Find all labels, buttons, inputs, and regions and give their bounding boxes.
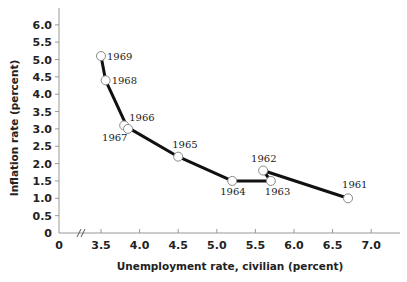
y-tick-label: 4.0 — [33, 88, 53, 101]
data-point-label: 1965 — [172, 139, 197, 150]
y-tick-label: 1.5 — [33, 175, 53, 188]
x-axis-title: Unemployment rate, civilian (percent) — [117, 260, 343, 272]
data-point-marker — [97, 52, 106, 61]
x-tick-label: 7.0 — [361, 239, 381, 252]
data-point-label: 1963 — [265, 186, 290, 197]
y-tick-label: 4.5 — [33, 71, 53, 84]
y-tick-label: 3.5 — [33, 106, 53, 119]
data-point-label: 1966 — [129, 112, 154, 123]
y-axis: 00.51.01.52.02.53.03.54.04.55.05.56.0 — [33, 8, 60, 240]
x-tick-label: 0 — [55, 239, 63, 252]
data-point-marker — [344, 194, 353, 203]
phillips-curve-chart: 00.51.01.52.02.53.03.54.04.55.05.56.0 03… — [0, 0, 407, 282]
y-tick-label: 5.5 — [33, 36, 53, 49]
x-axis: 03.54.04.55.05.56.06.57.0 — [55, 229, 400, 252]
x-tick-label: 4.0 — [130, 239, 150, 252]
data-point-label: 1961 — [342, 179, 367, 190]
y-axis-title: Inflation rate (percent) — [8, 60, 20, 197]
x-tick-label: 4.5 — [168, 239, 188, 252]
data-point-label: 1967 — [102, 132, 127, 143]
data-point-marker — [174, 152, 183, 161]
y-tick-label: 6.0 — [33, 19, 53, 32]
x-tick-label: 6.5 — [323, 239, 343, 252]
x-tick-label: 5.0 — [207, 239, 227, 252]
y-tick-label: 0.5 — [33, 210, 53, 223]
data-point-label: 1968 — [112, 75, 137, 86]
y-tick-label: 0 — [44, 227, 52, 240]
data-line — [101, 56, 348, 198]
data-point-label: 1964 — [220, 186, 245, 197]
x-tick-label: 5.5 — [246, 239, 266, 252]
x-tick-label: 3.5 — [91, 239, 111, 252]
data-point-marker — [101, 76, 110, 85]
x-tick-label: 6.0 — [284, 239, 304, 252]
data-point-marker — [259, 166, 268, 175]
data-point-label: 1962 — [251, 153, 276, 164]
y-tick-label: 3.0 — [33, 123, 53, 136]
y-tick-label: 2.0 — [33, 158, 53, 171]
data-point-marker — [266, 176, 275, 185]
data-point-label: 1969 — [107, 51, 132, 62]
y-tick-label: 2.5 — [33, 140, 53, 153]
y-tick-label: 5.0 — [33, 54, 53, 67]
y-tick-label: 1.0 — [33, 192, 53, 205]
data-point-marker — [228, 176, 237, 185]
curve-path — [101, 56, 348, 198]
data-points: 196119621963196419651966196719681969 — [97, 51, 368, 203]
